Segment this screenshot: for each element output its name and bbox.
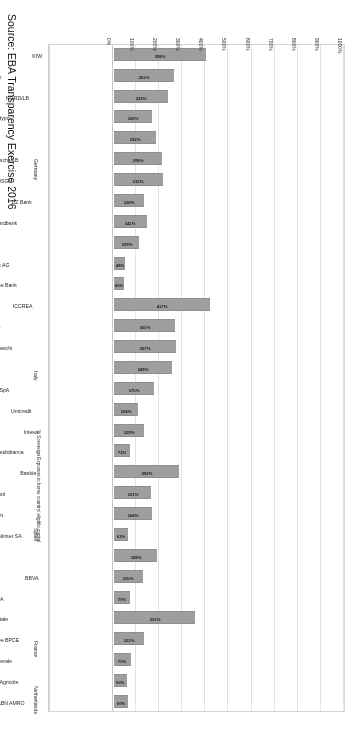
bar-row[interactable]: 109%LB Baden-Wuerttemberg	[49, 232, 345, 253]
bar-row[interactable]: 60%ABN AMRO	[49, 691, 345, 712]
x-tick-label: 300%	[175, 38, 181, 51]
bar-value-label: 265%	[138, 322, 152, 333]
category-label: Monte dei Paschi	[0, 342, 12, 354]
bar-value-label: 212%	[132, 176, 146, 187]
x-tick-label: 600%	[245, 38, 251, 51]
category-label: Groupe BPCE	[0, 634, 19, 646]
category-label: Banco Santander SA	[0, 593, 4, 605]
bar-value-label: 104%	[119, 406, 133, 417]
category-label: Banco Pop. Espanol	[0, 488, 5, 500]
bar-row[interactable]: 61%Bankinter SA	[49, 524, 345, 545]
bar-value-label: 249%	[136, 364, 150, 375]
bar-value-label: 131%	[122, 635, 136, 646]
country-group-label: France	[33, 641, 39, 657]
sovereign-exposure-bar-chart: 60%ABN AMRO55%Credit Agricole72%Societe …	[0, 0, 359, 730]
category-label: Mediobanca	[0, 447, 24, 459]
category-label: HSH Nordbank	[0, 217, 17, 229]
country-group-brackets: NetherlandsFranceSpainItalyGermany	[23, 44, 49, 712]
bar-row[interactable]: 175%Banca Carige SpA	[49, 378, 345, 399]
bar-row[interactable]: 267%Monte dei Paschi	[49, 336, 345, 357]
country-group: Netherlands	[23, 691, 49, 712]
bar-value-label: 182%	[128, 134, 142, 145]
x-tick-label: 200%	[152, 38, 158, 51]
bar-value-label: 164%	[126, 510, 140, 521]
chart-rotated-canvas: 60%ABN AMRO55%Credit Agricole72%Societe …	[0, 0, 359, 730]
category-label: ABN AMRO	[0, 697, 25, 709]
category-label: Bankinter SA	[0, 530, 22, 542]
category-label: Societe Generale	[0, 655, 12, 667]
country-group: France	[23, 608, 49, 692]
bar-value-label: 71%	[115, 448, 129, 459]
bar-value-label: 208%	[131, 155, 145, 166]
category-label: LKB BW-Foerderbank	[0, 71, 1, 83]
bar-row[interactable]: 166%Muenchener Hypo	[49, 107, 345, 128]
bar-value-label: 70%	[115, 594, 129, 605]
category-label: Credit Agricole	[0, 676, 18, 688]
bar-row[interactable]: 45%Deutsche Bank	[49, 274, 345, 295]
bar-row[interactable]: 188%Banco de Sabadell, SA	[49, 545, 345, 566]
bar-value-label: 351%	[148, 615, 162, 626]
bar-value-label: 72%	[115, 656, 129, 667]
bar-row[interactable]: 71%Mediobanca	[49, 441, 345, 462]
bar-value-label: 128%	[122, 197, 136, 208]
bar-value-label: 61%	[114, 531, 128, 542]
bar-value-label: 166%	[126, 114, 140, 125]
bar-row[interactable]: 55%Credit Agricole	[49, 670, 345, 691]
bar-value-label: 232%	[134, 93, 148, 104]
category-label: Banca Carige SpA	[0, 384, 9, 396]
bar-value-label: 55%	[113, 677, 127, 688]
bar-value-label: 109%	[120, 239, 134, 250]
bar-row[interactable]: 232%NORD/LB	[49, 86, 345, 107]
bar-row[interactable]: 70%Banco Santander SA	[49, 587, 345, 608]
bar-row[interactable]: 398%KfW	[49, 44, 345, 65]
bar-row[interactable]: 131%Groupe BPCE	[49, 629, 345, 650]
bar-row[interactable]: 141%HSH Nordbank	[49, 211, 345, 232]
bar-value-label: 417%	[155, 301, 169, 312]
x-tick-label: 1000%	[337, 38, 343, 54]
country-group-label: Germany	[33, 159, 39, 180]
category-label: La Banque Postale	[0, 614, 8, 626]
bar-value-label: 398%	[153, 51, 167, 62]
country-group: Germany	[23, 44, 49, 295]
bar-value-label: 175%	[127, 385, 141, 396]
bar-row[interactable]: 351%La Banque Postale	[49, 608, 345, 629]
category-label: Banco Mare Nostrum	[0, 509, 3, 521]
bar-row[interactable]: 212%DekaBank DSGV	[49, 169, 345, 190]
bar-row[interactable]: 72%Societe Generale	[49, 649, 345, 670]
bar-row[interactable]: 161%Banco Pop. Espanol	[49, 482, 345, 503]
bar-value-label: 45%	[112, 281, 126, 292]
bar-row[interactable]: 125%BBVA	[49, 566, 345, 587]
bar-row[interactable]: 128%DZ Bank	[49, 190, 345, 211]
x-tick-label: 700%	[268, 38, 274, 51]
bar-value-label: 267%	[138, 343, 152, 354]
x-tick-label: 100%	[129, 38, 135, 51]
bar-value-label: 60%	[114, 698, 128, 709]
bar-value-label: 283%	[140, 468, 154, 479]
country-group-label: Italy	[33, 371, 39, 381]
x-tick-label: 400%	[198, 38, 204, 51]
bar-row[interactable]: 265%Banca Pop. di Sondrio	[49, 315, 345, 336]
bar-row[interactable]: 182%LB Hessen-Thueringen	[49, 128, 345, 149]
bar-row[interactable]: 249%Banca Pop. di Vicenza	[49, 357, 345, 378]
bar-row[interactable]: 48%Commerzbank AG	[49, 253, 345, 274]
bar-value-label: 188%	[129, 552, 143, 563]
bar-value-label: 161%	[126, 489, 140, 500]
x-axis-tick-labels: 0%100%200%300%400%500%600%700%800%900%10…	[49, 6, 345, 40]
bar-value-label: 129%	[122, 427, 136, 438]
bar-row[interactable]: 261%LKB BW-Foerderbank	[49, 65, 345, 86]
source-note: Source: EBA Transparency Exercise 2016	[6, 14, 18, 210]
bar-row[interactable]: 208%Bayerische LB	[49, 148, 345, 169]
x-tick-label: 900%	[314, 38, 320, 51]
bar-value-label: 141%	[123, 218, 137, 229]
category-label: Deutsche Bank	[0, 280, 17, 292]
bar-value-label: 48%	[113, 260, 127, 271]
bar-row[interactable]: 164%Banco Mare Nostrum	[49, 503, 345, 524]
axis-title: % Sovereign Exposure to home country/ el…	[36, 430, 41, 440]
bar-value-label: 125%	[121, 573, 135, 584]
bar-row[interactable]: 104%Unicredit	[49, 399, 345, 420]
bar-row[interactable]: 417%ICCREA	[49, 295, 345, 316]
bar-row[interactable]: 283%Bankia	[49, 462, 345, 483]
bar-row[interactable]: 129%Intesa	[49, 420, 345, 441]
bar-value-label: 261%	[137, 72, 151, 83]
bar-rows: 60%ABN AMRO55%Credit Agricole72%Societe …	[49, 44, 345, 712]
